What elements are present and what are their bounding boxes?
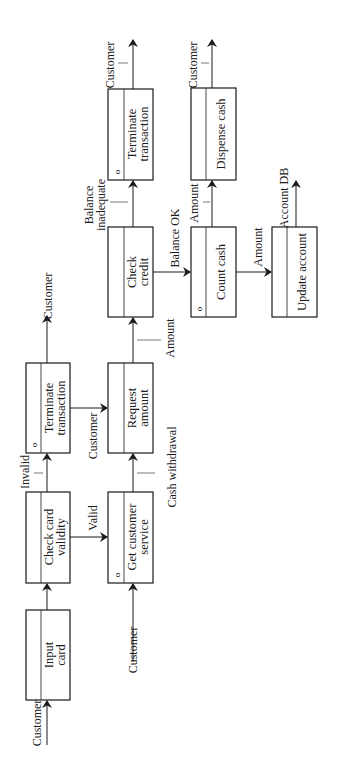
flow-amount-to-update: Amount <box>236 227 271 272</box>
box-dispense-cash: Dispense cash <box>191 88 236 180</box>
flow-label: Customer <box>186 42 200 89</box>
box-check-card-validity: Check card validity <box>26 492 70 583</box>
flow-label: Amount <box>187 183 201 223</box>
optional-marker: o <box>112 169 122 174</box>
flow-terminate2-customer-out: Customer <box>103 40 133 89</box>
flow-label: Cash withdrawal <box>165 426 179 508</box>
box-label: validity <box>54 517 68 556</box>
box-get-customer-service: o Get customer service <box>108 492 153 583</box>
box-request-amount: Request amount <box>108 363 153 453</box>
box-label: amount <box>137 389 151 427</box>
flow-customer-to-gcs: Customer <box>126 584 140 673</box>
flow-amount-to-check-credit: Amount <box>133 318 177 363</box>
flow-label: Customer <box>103 42 117 89</box>
flow-label: inadequate <box>94 179 108 231</box>
flow-label: Balance OK <box>168 208 182 267</box>
flow-amount-to-dispense: Amount <box>187 181 212 227</box>
box-terminate-transaction-2: o Terminate transaction <box>108 89 153 180</box>
flow-terminate1-customer-out: Customer <box>41 273 55 363</box>
box-label: transaction <box>54 380 68 436</box>
flow-label: Customer <box>41 273 55 320</box>
box-label: Dispense cash <box>214 98 228 170</box>
box-count-cash: o Count cash <box>191 227 236 317</box>
box-label: Count cash <box>214 243 228 300</box>
optional-marker: o <box>194 306 204 311</box>
flow-label: Customer <box>86 413 100 460</box>
box-label: credit <box>137 257 151 286</box>
box-label: Update account <box>295 232 309 311</box>
optional-marker: o <box>112 572 122 577</box>
box-label: transaction <box>137 106 151 162</box>
box-check-credit: Check credit <box>108 227 153 317</box>
box-label: service <box>137 519 151 555</box>
flow-label: Customer <box>126 627 140 674</box>
flow-label: Account DB <box>277 168 291 228</box>
box-update-account: Update account <box>272 227 317 317</box>
flow-label: Valid <box>86 505 100 530</box>
flow-customer-to-request: Customer <box>70 408 107 459</box>
flow-invalid: Invalid <box>18 454 47 492</box>
box-label: card <box>54 643 68 665</box>
flow-customer-to-input-card: Customer <box>30 700 47 747</box>
optional-marker: o <box>29 442 39 447</box>
box-terminate-transaction-1: o Terminate transaction <box>26 363 70 453</box>
flow-balance-inadequate: Balance inadequate <box>82 179 133 231</box>
flow-label: Amount <box>251 227 265 267</box>
flow-balance-ok: Balance OK <box>153 208 190 272</box>
box-input-card: Input card <box>26 610 70 700</box>
atm-process-diagram: Input card Check card validity o Termina… <box>0 0 343 777</box>
flow-valid: Valid <box>70 505 107 537</box>
flow-dispense-customer-out: Customer <box>186 40 212 88</box>
flow-label: Amount <box>163 318 177 358</box>
flow-label: Customer <box>30 700 44 747</box>
flow-label: Invalid <box>18 455 32 489</box>
flow-account-db-out: Account DB <box>277 168 296 228</box>
